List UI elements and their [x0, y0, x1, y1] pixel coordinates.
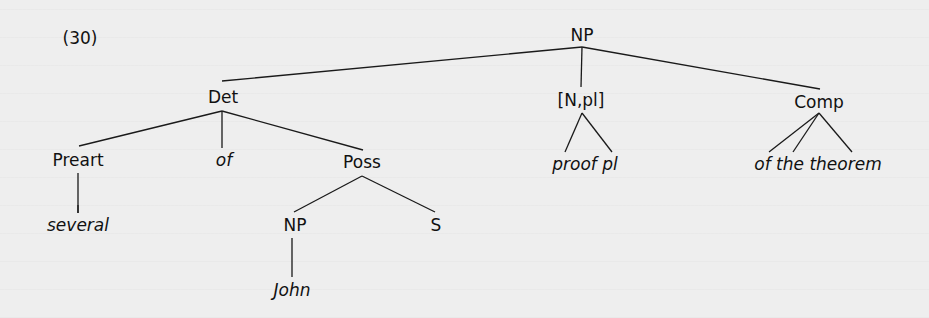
edge-np-comp	[582, 47, 820, 89]
node-n-pl: [N,pl]	[558, 92, 605, 109]
edge-np-det	[222, 47, 582, 81]
node-of: of	[216, 152, 232, 169]
node-np-inner: NP	[284, 217, 307, 234]
edge-npl-pl	[582, 113, 612, 152]
node-several: several	[47, 217, 109, 234]
node-det: Det	[208, 89, 238, 106]
node-proof-pl: proof pl	[552, 156, 618, 173]
node-preart: Preart	[52, 152, 103, 169]
edge-poss-s	[362, 176, 435, 212]
edge-comp-the	[793, 113, 819, 152]
node-comp: Comp	[794, 94, 844, 111]
node-s: S	[431, 217, 442, 234]
edge-det-preart	[79, 111, 222, 146]
node-poss: Poss	[343, 154, 381, 171]
edge-np-npl	[581, 47, 582, 87]
edge-npl-proof	[565, 113, 582, 152]
edge-poss-np	[294, 176, 362, 212]
example-number: (30)	[63, 30, 98, 47]
node-john: John	[274, 282, 311, 299]
edge-comp-theorem	[819, 113, 852, 152]
node-of-the-theorem: of the theorem	[754, 156, 881, 173]
node-np-root: NP	[571, 27, 594, 44]
edge-comp-of	[769, 113, 819, 152]
edge-det-poss	[222, 111, 363, 150]
